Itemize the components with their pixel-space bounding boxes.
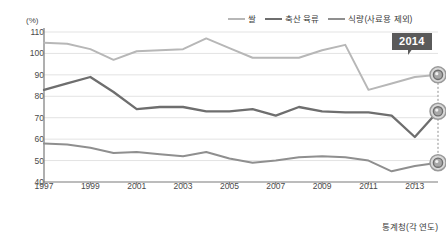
source-note: 통계청(각 연도) [382,220,438,232]
series-line-0 [44,38,438,89]
endpoint-marker-highlight-0 [435,72,438,75]
endpoint-marker-inner-0 [433,70,442,79]
series-line-2 [44,143,438,171]
endpoint-marker-inner-2 [433,158,442,167]
endpoint-marker-inner-1 [433,107,442,116]
year-callout-badge-tail [408,48,413,55]
chart-container: (%) 쌀 축산 육류 식량(사료용 제외) 11010090807060504… [0,0,446,241]
chart-plot-area [0,0,446,241]
endpoint-marker-highlight-1 [435,108,438,111]
endpoint-marker-highlight-2 [435,160,438,163]
